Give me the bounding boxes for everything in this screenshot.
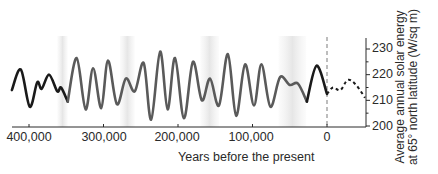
x-tick-label: 400,000 bbox=[6, 130, 51, 144]
y-tick-label: 210 bbox=[372, 93, 393, 107]
x-axis-title: Years before the present bbox=[178, 150, 314, 164]
series-line bbox=[327, 80, 365, 98]
shaded-band bbox=[120, 36, 135, 127]
x-tick-label: 200,000 bbox=[154, 130, 199, 144]
y-axis-title-line-2: at 65° north latitude (W/sq m) bbox=[407, 2, 420, 172]
x-tick-label: 100,000 bbox=[228, 130, 273, 144]
shaded-band bbox=[279, 36, 307, 127]
y-axis-title: Average annual solar energy at 65° north… bbox=[394, 2, 420, 172]
shaded-band bbox=[57, 36, 67, 127]
y-tick-label: 220 bbox=[372, 67, 393, 81]
shaded-band bbox=[200, 36, 219, 127]
series-line bbox=[307, 66, 327, 102]
insolation-chart bbox=[0, 0, 438, 174]
series-line bbox=[68, 52, 307, 120]
y-tick-label: 230 bbox=[372, 41, 393, 55]
y-tick-label: 200 bbox=[372, 119, 393, 133]
x-tick-label: 0 bbox=[324, 130, 331, 144]
x-tick-label: 300,000 bbox=[81, 130, 126, 144]
